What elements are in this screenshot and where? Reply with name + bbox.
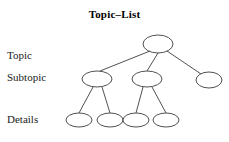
diagram-canvas: Topic–List Topic Subtopic Details xyxy=(0,0,229,142)
tree-node-det1[interactable] xyxy=(66,113,92,127)
tree-node-sub1[interactable] xyxy=(82,71,112,87)
node-group xyxy=(66,35,222,127)
tree-edge-sub2-det3 xyxy=(136,87,143,113)
tree-edge-root-sub1 xyxy=(100,51,150,71)
tree-node-det3[interactable] xyxy=(123,113,149,127)
tree-edge-sub1-det1 xyxy=(79,87,93,113)
tree-node-sub3[interactable] xyxy=(196,72,222,88)
tree-node-root[interactable] xyxy=(143,35,173,53)
tree-edge-sub2-det4 xyxy=(152,87,166,113)
tree-edge-root-sub3 xyxy=(167,51,201,74)
tree-node-sub2[interactable] xyxy=(132,71,162,87)
tree-node-det4[interactable] xyxy=(153,113,179,127)
tree-edge-root-sub2 xyxy=(147,53,158,71)
tree-graphic xyxy=(0,0,229,142)
tree-node-det2[interactable] xyxy=(97,113,123,127)
tree-edge-sub1-det2 xyxy=(102,87,110,113)
